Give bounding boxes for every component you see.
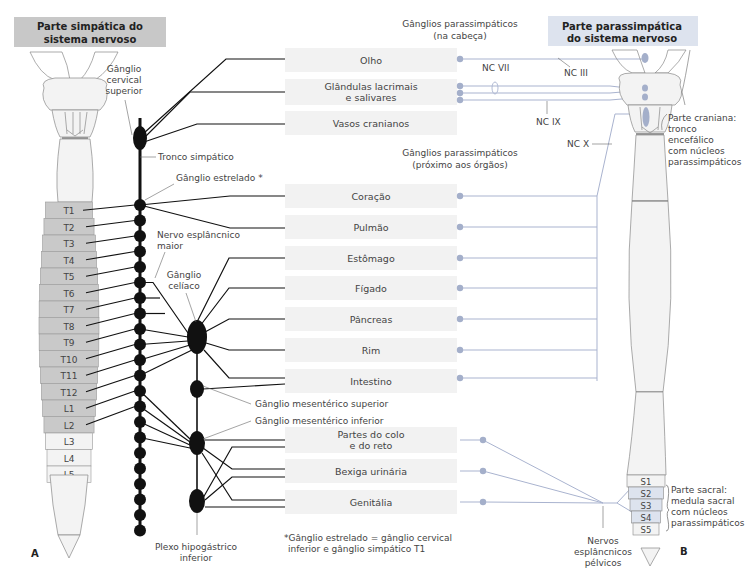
organ-intestino: Intestino xyxy=(285,369,457,393)
svg-text:Plexo hipogástrico: Plexo hipogástrico xyxy=(155,542,238,552)
pelvic-ganglion-bexiga xyxy=(480,468,486,474)
fiber-vasos xyxy=(144,124,285,142)
nucleus-nc-vii xyxy=(642,85,648,92)
sympathetic-fiber xyxy=(140,341,188,345)
trunk-ganglion xyxy=(134,525,146,537)
trunk-ganglion xyxy=(134,494,146,506)
parasympathetic-ganglion-dot xyxy=(457,90,463,96)
sympathetic-fiber xyxy=(140,407,190,443)
svg-text:*Gânglio estrelado = gânglio c: *Gânglio estrelado = gânglio cervical xyxy=(284,533,452,543)
label-ganglio-celiaco: Gânglio celíaco xyxy=(167,270,202,322)
organ-label: e do reto xyxy=(350,440,393,451)
label-nc-ix: NC IX xyxy=(536,101,561,127)
fiber-glandulas xyxy=(144,92,285,138)
spinal-segment-label: L3 xyxy=(64,437,75,447)
spinal-segment-label: T1 xyxy=(62,206,74,216)
sacral-segments: S1S2S3S4S5 xyxy=(627,475,665,535)
spinal-segment-label: L2 xyxy=(64,421,75,431)
svg-text:Gânglio: Gânglio xyxy=(167,270,202,280)
svg-text:maior: maior xyxy=(157,241,183,251)
svg-text:(na cabeça): (na cabeça) xyxy=(433,31,486,41)
fiber-pancreas xyxy=(205,319,285,332)
svg-text:Tronco simpático: Tronco simpático xyxy=(157,152,234,162)
ganglion-mesenterico-inferior xyxy=(189,431,205,455)
svg-text:NC X: NC X xyxy=(567,139,589,149)
svg-text:(próximo aos órgãos): (próximo aos órgãos) xyxy=(412,160,507,170)
plexo-hipogastrico-inferior xyxy=(189,489,205,513)
organ-label: Vasos cranianos xyxy=(333,118,410,129)
organ-label: Estômago xyxy=(347,253,395,264)
organ-label: Olho xyxy=(360,55,382,66)
organ-estomago: Estômago xyxy=(285,246,457,270)
nucleus-nc-x xyxy=(643,107,650,127)
spinal-segment-label: L4 xyxy=(64,454,75,464)
parasympathetic-ganglion-dot xyxy=(457,193,463,199)
sympathetic-fiber xyxy=(140,329,188,337)
spinal-segment-label: T3 xyxy=(62,239,74,249)
organ-label: Rim xyxy=(362,345,381,356)
fiber-rim xyxy=(206,343,285,350)
label-ganglio-cervical-superior: Gânglio cervical superior xyxy=(105,64,142,135)
organ-label: Coração xyxy=(351,191,390,202)
spinal-segment-label: T6 xyxy=(62,289,74,299)
nc-vii-fiber-a xyxy=(460,86,645,90)
fiber-bexiga-a xyxy=(203,448,285,469)
svg-text:Gânglio mesentérico superior: Gânglio mesentérico superior xyxy=(255,399,388,409)
sympathetic-header-line2: sistema nervoso xyxy=(44,34,137,45)
parasympathetic-header-line1: Parte parassimpática xyxy=(562,21,682,32)
organ-label: Intestino xyxy=(350,376,392,387)
panel-label-a: A xyxy=(31,548,39,559)
left-spine-tail xyxy=(50,475,88,558)
parasympathetic-header-line2: do sistema nervoso xyxy=(567,33,677,44)
ganglion-celiaco xyxy=(187,320,207,354)
svg-text:medula sacral: medula sacral xyxy=(671,496,734,506)
svg-text:parassimpáticos: parassimpáticos xyxy=(671,518,745,528)
left-brainstem-outline xyxy=(30,52,118,202)
spinal-segment-label: T4 xyxy=(62,256,74,266)
label-parte-sacral: Parte sacral: medula sacral com núcleos … xyxy=(666,485,745,531)
svg-text:cervical: cervical xyxy=(107,75,142,85)
svg-text:pélvicos: pélvicos xyxy=(585,558,622,568)
fiber-coracao xyxy=(140,196,285,205)
organ-genitalia: Genitália xyxy=(285,490,457,514)
trunk-ganglion xyxy=(134,463,146,475)
organ-olho: Olho xyxy=(285,48,457,72)
svg-text:NC VII: NC VII xyxy=(482,63,509,73)
svg-text:parassimpáticos: parassimpáticos xyxy=(668,157,742,167)
label-tronco-simpatico: Tronco simpático xyxy=(140,152,234,162)
sacral-segment-label: S3 xyxy=(641,501,652,511)
trunk-ganglion xyxy=(134,215,146,227)
sympathetic-fiber xyxy=(140,350,192,376)
parasympathetic-ganglion-dot xyxy=(457,316,463,322)
organ-rim: Rim xyxy=(285,338,457,362)
spinal-segment-label: T9 xyxy=(62,338,74,348)
svg-text:Gânglio estrelado *: Gânglio estrelado * xyxy=(176,173,263,183)
sacral-segment-label: S5 xyxy=(641,525,652,535)
svg-text:Nervo esplâncnico: Nervo esplâncnico xyxy=(157,230,240,240)
ganglion-cervical-superior xyxy=(133,126,147,150)
trunk-ganglion xyxy=(134,230,146,242)
label-nc-x: NC X xyxy=(567,139,612,149)
organ-label: Pâncreas xyxy=(350,314,393,325)
svg-text:NC IX: NC IX xyxy=(536,117,561,127)
left-spinal-segments: T1T2T3T4T5T6T7T8T9T10T11T12L1L2L3L4L5 xyxy=(39,202,99,483)
nucleus-nc-ix xyxy=(642,94,648,101)
organ-label: Glândulas lacrimais xyxy=(324,81,417,92)
nc-ix-fiber xyxy=(460,97,645,100)
svg-text:com núcleos: com núcleos xyxy=(671,507,728,517)
trunk-ganglion xyxy=(134,246,146,258)
svg-text:Parte craniana:: Parte craniana: xyxy=(668,113,736,123)
label-nervos-esplancnicos-pelvicos: Nervos esplâncnicos pélvicos xyxy=(574,506,632,568)
sacral-segment-label: S2 xyxy=(641,489,652,499)
panel-label-b: B xyxy=(680,546,688,557)
svg-text:Gânglio mesentérico inferior: Gânglio mesentérico inferior xyxy=(255,416,384,426)
trunk-ganglion xyxy=(134,478,146,490)
sympathetic-header-line1: Parte simpática do xyxy=(37,21,143,32)
organ-label: Bexiga urinária xyxy=(335,466,407,477)
organ-colo: Partes do coloe do reto xyxy=(285,427,457,453)
label-nc-iii: NC III xyxy=(558,58,588,78)
organ-glandulas: Glândulas lacrimaise salivares xyxy=(285,79,457,105)
organ-label: e salivares xyxy=(346,92,397,103)
pelvic-ganglion-genitalia xyxy=(480,499,486,505)
parasympathetic-ganglion-dot xyxy=(457,285,463,291)
